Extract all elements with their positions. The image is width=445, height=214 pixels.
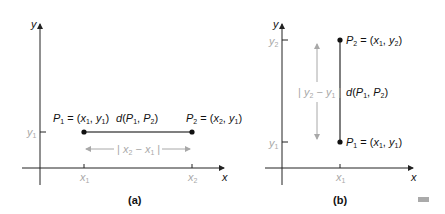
y1-tick-label: y1 <box>26 126 37 139</box>
distance-formula-diagram: y x y1 x1 x2 P1 = (x1, y1) d(P1, P2) P2 … <box>0 0 445 214</box>
point-p1 <box>337 139 342 144</box>
x1-tick-label: x1 <box>79 171 90 184</box>
y2-tick-label: y2 <box>268 35 279 48</box>
p2-label: P2 = (x1, y2) <box>346 34 402 47</box>
x-axis-label: x <box>221 171 228 183</box>
y1-tick-label: y1 <box>268 137 279 150</box>
panel-a: y x y1 x1 x2 P1 = (x1, y1) d(P1, P2) P2 … <box>22 18 242 206</box>
distance-label: d(P1, P2) <box>116 112 158 125</box>
gray-marker <box>418 197 429 202</box>
y-axis-label: y <box>30 18 38 30</box>
point-p1 <box>81 129 86 134</box>
p2-label: P2 = (x2, y1) <box>186 112 242 125</box>
y-axis-label: y <box>272 18 280 30</box>
y-difference-label: | y2 − y1 | <box>298 86 341 99</box>
point-p2 <box>337 37 342 42</box>
distance-label: d(P1, P2) <box>346 86 388 99</box>
x-difference-label: | x2 − x1 | <box>117 143 160 156</box>
x1-tick-label: x1 <box>335 171 346 184</box>
x-axis-label: x <box>410 171 417 183</box>
point-p2 <box>189 129 194 134</box>
p1-label: P1 = (x1, y1) <box>53 112 109 125</box>
panel-b: y x y2 y1 x1 P2 = (x1, y2) P1 = (x1, y1)… <box>265 18 417 206</box>
caption-b: (b) <box>333 194 347 206</box>
p1-label: P1 = (x1, y1) <box>346 136 402 149</box>
caption-a: (a) <box>128 194 142 206</box>
x2-tick-label: x2 <box>187 171 198 184</box>
